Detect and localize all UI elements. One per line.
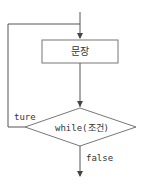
entry-arrow-head-icon <box>77 33 83 39</box>
statement-box: 문장 <box>42 40 118 63</box>
exit-arrow-head-icon <box>77 171 83 177</box>
false-branch-label: false <box>86 153 113 163</box>
statement-label: 문장 <box>71 46 89 57</box>
condition-label: while(조건) <box>55 123 109 133</box>
true-branch-label: ture <box>14 112 36 122</box>
condition-arrow-head-icon <box>77 101 83 107</box>
flowchart-canvas: 문장 while(조건) ture false <box>0 0 144 190</box>
condition-diamond: while(조건) <box>25 108 136 146</box>
